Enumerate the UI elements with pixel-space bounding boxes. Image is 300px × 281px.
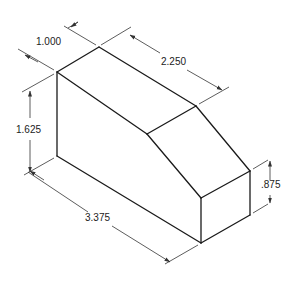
dimension-label-height: 1.625 — [16, 125, 41, 135]
isometric-drawing: 1.000 2.250 1.625 3.375 .875 — [0, 0, 300, 281]
dimension-label-depth: 1.000 — [36, 37, 61, 47]
dimension-label-total-length: 3.375 — [85, 213, 110, 223]
dimension-label-short-height: .875 — [261, 180, 280, 190]
dimension-total-length — [28, 171, 198, 264]
dimension-label-top-length: 2.250 — [161, 57, 186, 67]
